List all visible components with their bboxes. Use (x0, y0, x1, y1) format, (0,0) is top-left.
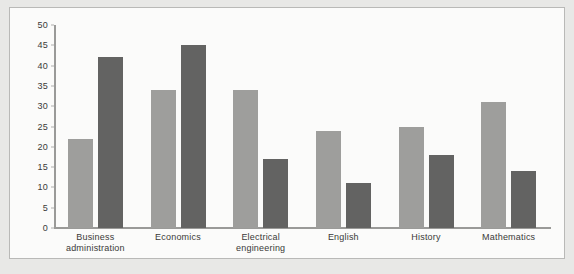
x-axis-label-line2: engineering (219, 243, 302, 254)
bar[interactable] (263, 159, 288, 228)
bar-group (302, 25, 385, 228)
x-axis-label: Businessadministration (54, 232, 137, 254)
y-tick-label: 0 (43, 223, 48, 233)
y-tick-label: 30 (38, 101, 48, 111)
bar[interactable] (68, 139, 93, 228)
x-axis-label-line1: Economics (137, 232, 220, 243)
y-tick-label: 45 (38, 40, 48, 50)
bar[interactable] (233, 90, 258, 228)
x-axis-labels: BusinessadministrationEconomicsElectrica… (54, 232, 550, 254)
y-tick-label: 20 (38, 142, 48, 152)
x-axis-label-line2: administration (54, 243, 137, 254)
bar-group (467, 25, 550, 228)
bar-group (54, 25, 137, 228)
x-axis-label: English (302, 232, 385, 254)
y-tick-label: 10 (38, 182, 48, 192)
bar[interactable] (346, 183, 371, 228)
bar[interactable] (481, 102, 506, 228)
plot-area: 05101520253035404550 (54, 25, 550, 228)
x-axis-label: Electricalengineering (219, 232, 302, 254)
bar[interactable] (399, 127, 424, 229)
x-axis-label: Mathematics (467, 232, 550, 254)
y-tick-label: 25 (38, 122, 48, 132)
bars-layer (54, 25, 550, 228)
y-tick-label: 40 (38, 61, 48, 71)
chart-panel: 05101520253035404550 Businessadministrat… (9, 7, 565, 259)
bar-group (137, 25, 220, 228)
bar[interactable] (511, 171, 536, 228)
y-tick-label: 35 (38, 81, 48, 91)
x-axis-label-line1: English (302, 232, 385, 243)
y-tick-label: 5 (43, 203, 48, 213)
bar[interactable] (151, 90, 176, 228)
bar-group (219, 25, 302, 228)
bar[interactable] (316, 131, 341, 228)
x-axis-label: History (385, 232, 468, 254)
bar[interactable] (429, 155, 454, 228)
bar[interactable] (98, 57, 123, 228)
bar[interactable] (181, 45, 206, 228)
x-axis-label-line1: Business (54, 232, 137, 243)
x-axis-label: Economics (137, 232, 220, 254)
x-axis-label-line1: History (385, 232, 468, 243)
bar-group (385, 25, 468, 228)
x-axis-label-line1: Electrical (219, 232, 302, 243)
x-axis-label-line1: Mathematics (467, 232, 550, 243)
y-tick-label: 15 (38, 162, 48, 172)
y-tick-label: 50 (38, 20, 48, 30)
